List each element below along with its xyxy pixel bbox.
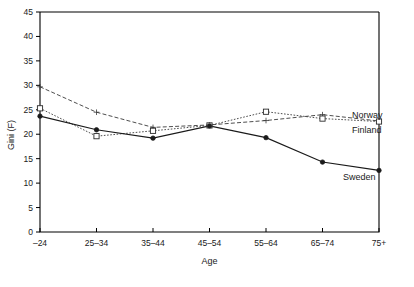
y-axis-title: Gini (F) <box>6 120 16 150</box>
x-tick-label: 45–54 <box>198 238 222 248</box>
y-tick-label: 20 <box>24 129 34 139</box>
y-axis-ticks: 051015202530354045 <box>24 7 40 237</box>
series-label-finland: Finland <box>352 125 382 135</box>
data-point-sweden <box>94 128 98 132</box>
y-tick-label: 5 <box>28 203 33 213</box>
data-point-finland <box>37 106 42 111</box>
x-tick-label: 75+ <box>372 238 386 248</box>
y-tick-label: 45 <box>24 7 34 17</box>
series-line-norway <box>40 87 379 128</box>
chart-canvas: 051015202530354045 –2425–3435–4445–5455–… <box>0 0 414 287</box>
x-tick-label: 65–74 <box>311 238 335 248</box>
axis-frame <box>40 12 379 232</box>
x-tick-label: 25–34 <box>85 238 109 248</box>
data-point-finland <box>320 116 325 121</box>
data-point-sweden <box>320 160 324 164</box>
x-tick-label: –24 <box>33 238 47 248</box>
data-point-finland <box>150 128 155 133</box>
series-lines <box>40 87 379 171</box>
series-label-norway: Norway <box>352 110 383 120</box>
y-tick-label: 40 <box>24 31 34 41</box>
data-point-finland <box>263 109 268 114</box>
x-tick-label: 55–64 <box>254 238 278 248</box>
x-axis-title: Age <box>201 256 217 266</box>
y-tick-label: 15 <box>24 154 34 164</box>
axis-lines <box>40 12 379 232</box>
series-label-sweden: Sweden <box>343 172 376 182</box>
y-tick-label: 30 <box>24 80 34 90</box>
data-point-sweden <box>151 136 155 140</box>
x-tick-label: 35–44 <box>141 238 165 248</box>
data-point-sweden <box>207 124 211 128</box>
line-chart: 051015202530354045 –2425–3435–4445–5455–… <box>0 0 414 287</box>
y-tick-label: 0 <box>28 227 33 237</box>
data-point-sweden <box>377 168 381 172</box>
y-tick-label: 35 <box>24 56 34 66</box>
data-point-sweden <box>38 114 42 118</box>
y-tick-label: 25 <box>24 105 34 115</box>
data-point-sweden <box>264 135 268 139</box>
data-point-finland <box>94 134 99 139</box>
x-axis-ticks: –2425–3435–4445–5455–6465–7475+ <box>33 228 386 248</box>
y-tick-label: 10 <box>24 178 34 188</box>
